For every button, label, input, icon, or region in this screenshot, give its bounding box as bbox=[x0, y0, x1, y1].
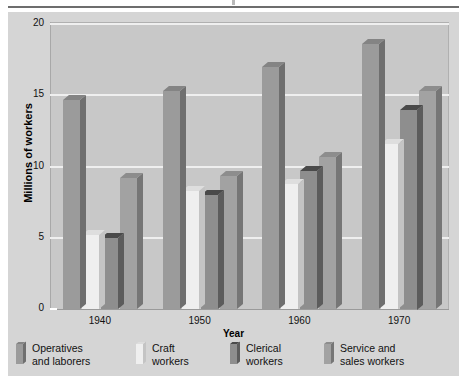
gridline-20 bbox=[50, 23, 449, 25]
legend-label-line1: Service and bbox=[340, 342, 404, 355]
legend-swatch-icon bbox=[324, 344, 331, 364]
bar-side-face bbox=[180, 86, 186, 309]
bar-side-face bbox=[99, 230, 105, 309]
figure-container: 05101520 Millions of workers 19401950196… bbox=[8, 12, 459, 376]
legend-swatch-icon bbox=[16, 344, 23, 364]
bar-side-face bbox=[80, 94, 86, 309]
bar-front-face bbox=[362, 44, 379, 309]
chart-page: 05101520 Millions of workers 19401950196… bbox=[0, 0, 467, 376]
chart-legend: Operativesand laborersCraftworkersCleric… bbox=[8, 342, 459, 376]
legend-label: Operativesand laborers bbox=[32, 342, 90, 368]
bar-side-face bbox=[137, 173, 143, 309]
legend-swatch-front bbox=[136, 344, 143, 364]
bar-side-face bbox=[398, 139, 404, 309]
legend-label-line2: and laborers bbox=[32, 355, 90, 368]
x-tick-label-1970: 1970 bbox=[369, 315, 429, 326]
bar-side-face bbox=[317, 166, 323, 309]
bar-side-face bbox=[279, 62, 285, 309]
bar-side-face bbox=[436, 86, 442, 309]
y-tick-label-0: 0 bbox=[18, 303, 44, 313]
bar-1960-series-0 bbox=[262, 67, 279, 309]
legend-label-line1: Clerical bbox=[246, 342, 283, 355]
legend-swatch-front bbox=[230, 344, 237, 364]
y-tick-label-5: 5 bbox=[18, 232, 44, 242]
legend-swatch-icon bbox=[230, 344, 237, 364]
header-rule bbox=[8, 6, 459, 8]
bar-side-face bbox=[218, 190, 224, 309]
bar-front-face bbox=[262, 67, 279, 309]
bar-side-face bbox=[118, 233, 124, 309]
legend-label-line2: sales workers bbox=[340, 355, 404, 368]
legend-label-line2: workers bbox=[246, 355, 283, 368]
bar-1940-series-0 bbox=[63, 100, 80, 309]
gridline-15 bbox=[50, 94, 449, 96]
x-tick-label-1940: 1940 bbox=[70, 315, 130, 326]
legend-swatch-front bbox=[324, 344, 331, 364]
legend-swatch-side bbox=[23, 341, 26, 364]
legend-swatch-front bbox=[16, 344, 23, 364]
bar-front-face bbox=[163, 91, 180, 309]
bar-side-face bbox=[237, 171, 243, 309]
x-tick-label-1960: 1960 bbox=[269, 315, 329, 326]
legend-label: Service andsales workers bbox=[340, 342, 404, 368]
bar-front-face bbox=[63, 100, 80, 309]
x-axis-title: Year bbox=[8, 328, 459, 339]
bar-1950-series-0 bbox=[163, 91, 180, 309]
legend-swatch-icon bbox=[136, 344, 143, 364]
gridline-0 bbox=[50, 308, 57, 310]
legend-label-line2: workers bbox=[152, 355, 189, 368]
bar-side-face bbox=[417, 104, 423, 309]
bar-side-face bbox=[298, 179, 304, 309]
bar-side-face bbox=[379, 39, 385, 309]
top-tick-mark bbox=[232, 0, 235, 5]
legend-label-line1: Craft bbox=[152, 342, 189, 355]
bar-side-face bbox=[336, 151, 342, 309]
legend-label: Craftworkers bbox=[152, 342, 189, 368]
y-tick-label-20: 20 bbox=[18, 18, 44, 28]
legend-swatch-side bbox=[143, 341, 146, 364]
legend-swatch-side bbox=[237, 341, 240, 364]
x-axis-line bbox=[50, 309, 449, 310]
y-axis-title: Millions of workers bbox=[22, 93, 34, 213]
x-tick-label-1950: 1950 bbox=[170, 315, 230, 326]
bar-side-face bbox=[199, 186, 205, 309]
bar-1970-series-0 bbox=[362, 44, 379, 309]
legend-label: Clericalworkers bbox=[246, 342, 283, 368]
legend-label-line1: Operatives bbox=[32, 342, 90, 355]
legend-swatch-side bbox=[331, 341, 334, 364]
